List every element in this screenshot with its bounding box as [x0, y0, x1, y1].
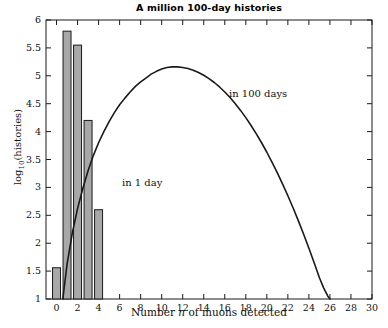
histogram-bar [95, 210, 103, 299]
histogram-bar [74, 45, 82, 299]
y-tick-label: 5.5 [0, 42, 41, 53]
y-tick-label: 1 [0, 293, 41, 304]
y-axis-title: log10(histories) [12, 82, 26, 212]
bar-series-one-day [53, 31, 103, 299]
y-axis-title-prefix: log [12, 169, 23, 185]
histogram-bar [84, 120, 92, 299]
x-axis-title: Number n of muons detected [46, 306, 372, 318]
y-tick-label: 6 [0, 14, 41, 25]
chart-figure: A million 100-day histories 11.522.533.5… [0, 0, 388, 328]
histogram-bar [63, 31, 71, 299]
plot-canvas [0, 0, 388, 328]
x-axis-title-after: of muons detected [185, 306, 287, 318]
y-axis-title-suffix: (histories) [12, 109, 23, 161]
y-tick-label: 1.5 [0, 265, 41, 276]
y-axis-title-subscript: 10 [18, 161, 26, 170]
histogram-bar [53, 268, 61, 299]
annotation-in-100-days: in 100 days [229, 88, 287, 99]
x-axis-title-before: Number [131, 306, 178, 318]
x-tick-marks [57, 20, 372, 299]
annotation-in-1-day: in 1 day [122, 177, 162, 188]
y-tick-label: 5 [0, 70, 41, 81]
y-tick-label: 2 [0, 237, 41, 248]
